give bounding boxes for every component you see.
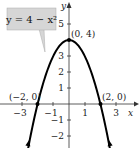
y-tick-label: 3 — [58, 51, 64, 61]
y-tick-label: 2 — [58, 67, 64, 77]
equation-label: y = 4 − x² — [5, 14, 57, 25]
x-tick-label: −3 — [13, 108, 27, 118]
y-tick-label: 5 — [58, 19, 64, 29]
x-intercept-left-point — [36, 102, 40, 106]
x-intercept-right-point — [99, 102, 103, 106]
callout-pointer — [39, 29, 45, 52]
y-axis-arrow-icon — [67, 2, 72, 8]
y-tick-label: 1 — [58, 83, 64, 93]
left-intercept-label: (−2, 0) — [9, 92, 41, 102]
equation-callout: y = 4 − x² — [5, 8, 57, 52]
right-intercept-label: (2, 0) — [102, 92, 126, 102]
y-tick-label: −1 — [51, 115, 64, 125]
x-tick-label: 1 — [82, 108, 88, 118]
vertex-label: (0, 4) — [71, 29, 95, 39]
y-tick-label: −2 — [51, 131, 64, 141]
parabola-graph: y = 4 − x² x y −3 −1 1 3 5 3 2 1 −1 −2 — [0, 0, 139, 148]
x-axis-label: x — [128, 108, 133, 118]
x-tick-label: 3 — [113, 108, 119, 118]
x-axis-arrow-icon — [134, 102, 139, 107]
y-axis-label: y — [60, 1, 67, 11]
